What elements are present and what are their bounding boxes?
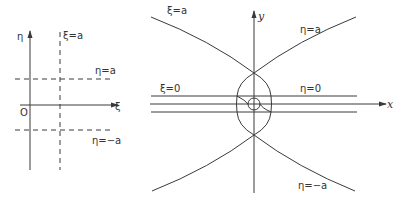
lens-right-mid — [271, 96, 272, 112]
eta-equals-minus-a-label: η=−a — [92, 135, 121, 146]
lens-inner-link-right — [260, 104, 271, 112]
lens-inner-link-left — [237, 96, 248, 104]
eta-equals-0-label: η=0 — [300, 83, 321, 94]
x-axis-label: x — [387, 98, 394, 111]
left-diagram: η ξ O ξ=a η=a η=−a — [15, 30, 121, 170]
lens-right-upper — [254, 73, 271, 96]
xi-equals-0-label: ξ=0 — [160, 83, 180, 94]
lens-left-lower — [237, 112, 254, 135]
xi-axis-label: ξ — [115, 101, 121, 112]
lens-left-upper — [237, 73, 254, 96]
xi-equals-a-label: ξ=a — [167, 5, 187, 16]
origin-label: O — [20, 107, 28, 118]
eta-equals-a-label: η=a — [95, 65, 116, 76]
lens-left-mid — [237, 96, 238, 112]
diagram-canvas: η ξ O ξ=a η=a η=−a y x ξ=0 η=0 ξ=a — [0, 0, 398, 208]
eta-equals-a-label: η=a — [300, 24, 321, 35]
xi-equals-a-label: ξ=a — [63, 30, 83, 41]
xi-equals-a-curve-upper — [151, 17, 254, 73]
xi-equals-a-curve-lower — [152, 135, 254, 191]
right-diagram: y x ξ=0 η=0 ξ=a η=a η=−a — [150, 5, 394, 193]
y-axis-label: y — [257, 10, 265, 23]
lens-right-lower — [254, 112, 271, 135]
eta-equals-minus-a-label: η=−a — [298, 180, 327, 191]
eta-axis-label: η — [17, 31, 23, 42]
